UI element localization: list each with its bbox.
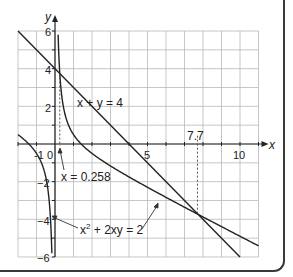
- line-equation-label: x + y = 4: [77, 96, 123, 110]
- x-tick-minus1: -1: [34, 149, 44, 161]
- y-axis-label: y: [44, 10, 52, 24]
- x-tick-0: 0: [47, 149, 53, 161]
- arrow-to-right-branch: [142, 206, 157, 229]
- graph: x y -1 0 5 10 6 4 2 −2 −4 −6 x + y = 4 x…: [0, 0, 293, 277]
- y-tick-2: 2: [45, 102, 51, 114]
- axes: [18, 15, 269, 257]
- x-tick-5: 5: [144, 149, 150, 161]
- arrowhead-icon: [58, 148, 62, 153]
- curve-equation-label: x2 + 2xy = 2: [80, 222, 143, 237]
- curve-branch-1: [58, 35, 258, 246]
- curve-eq-rest: + 2xy = 2: [90, 223, 143, 237]
- y-tick-minus2: −2: [37, 177, 50, 189]
- y-tick-minus4: −4: [37, 215, 50, 227]
- vline-right-label: 7.7: [187, 129, 204, 143]
- y-tick-4: 4: [45, 64, 51, 76]
- arrowhead-icon: [154, 203, 158, 208]
- vline-left-label: x = 0.258: [61, 170, 111, 184]
- x-tick-10: 10: [233, 149, 245, 161]
- y-tick-minus6: −6: [37, 252, 50, 264]
- y-tick-6: 6: [45, 26, 51, 38]
- annotation-arrows: [52, 148, 158, 229]
- x-axis-label: x: [268, 138, 276, 152]
